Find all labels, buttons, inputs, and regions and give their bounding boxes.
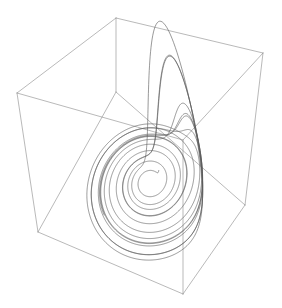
box-edge [116, 92, 245, 205]
bounding-box-wireframe [17, 18, 263, 294]
rossler-attractor-figure [0, 0, 282, 308]
attractor-trajectory-path [87, 21, 203, 260]
box-edge [17, 93, 38, 232]
box-edge [116, 18, 263, 53]
box-edge [183, 205, 245, 294]
box-edge [17, 18, 116, 93]
plot-canvas [0, 0, 282, 308]
box-edge [245, 53, 263, 205]
attractor-trajectory-group [87, 21, 203, 260]
box-edge [17, 93, 183, 140]
